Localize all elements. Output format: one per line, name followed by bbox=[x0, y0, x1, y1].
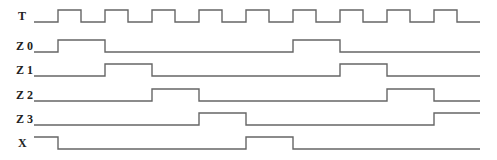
waveform-z0 bbox=[34, 40, 480, 52]
signal-z2: Z 2 bbox=[16, 88, 480, 102]
signal-label-x: X bbox=[18, 136, 27, 150]
signal-label-z3: Z 3 bbox=[16, 112, 33, 126]
signal-label-z0: Z 0 bbox=[16, 39, 33, 53]
signal-z1: Z 1 bbox=[16, 63, 480, 77]
signal-t: T bbox=[18, 9, 480, 23]
signal-label-t: T bbox=[18, 9, 26, 23]
timing-diagram: T Z 0 Z 1 Z 2 Z 3 X bbox=[0, 0, 497, 160]
waveform-x bbox=[34, 137, 480, 149]
signal-x: X bbox=[18, 136, 480, 150]
waveform-z1 bbox=[34, 64, 480, 76]
signal-label-z2: Z 2 bbox=[16, 88, 33, 102]
signal-z0: Z 0 bbox=[16, 39, 480, 53]
waveform-t bbox=[34, 10, 480, 22]
waveform-z2 bbox=[34, 89, 480, 101]
waveform-z3 bbox=[34, 113, 480, 125]
signal-z3: Z 3 bbox=[16, 112, 480, 126]
signal-label-z1: Z 1 bbox=[16, 63, 33, 77]
